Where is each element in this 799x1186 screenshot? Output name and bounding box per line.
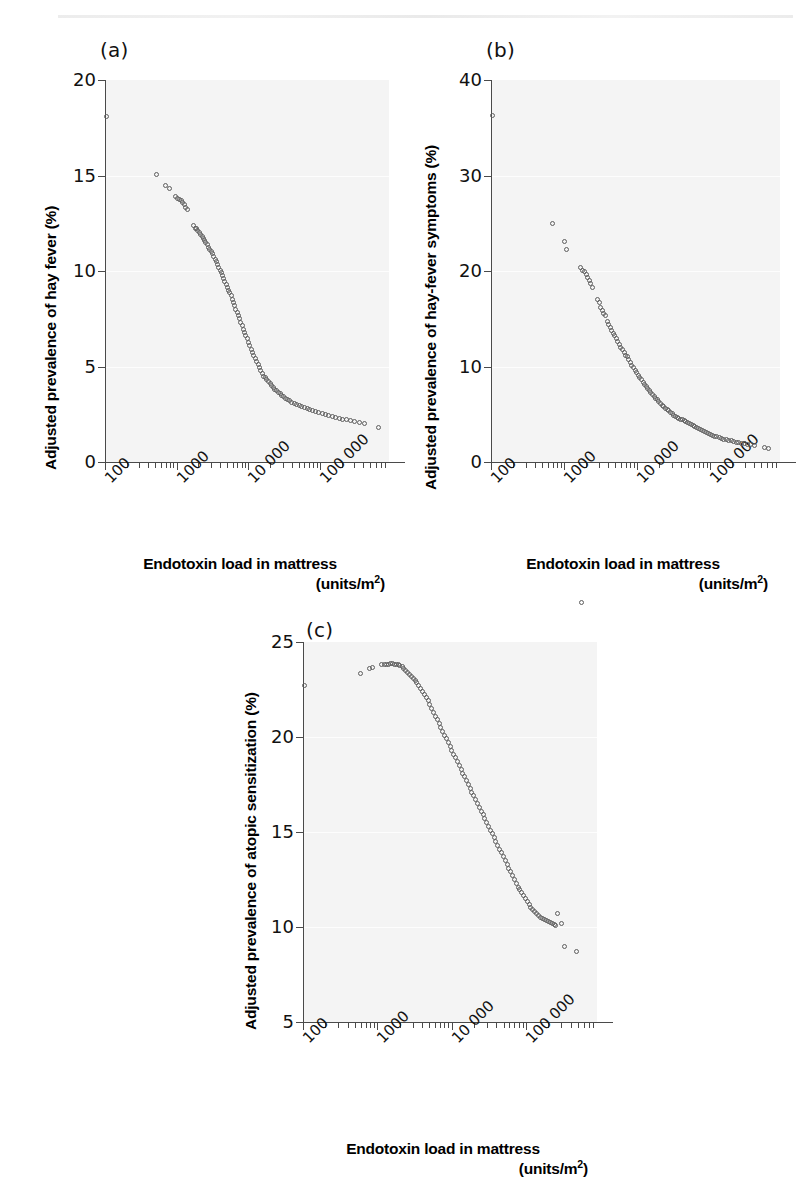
x-tick-minor xyxy=(233,463,234,468)
y-tick-label: 0 xyxy=(438,451,482,472)
x-tick-minor xyxy=(504,1023,505,1028)
y-tick xyxy=(296,737,303,738)
panel-c-x-title-line1: Endotoxin load in mattress xyxy=(346,1140,540,1157)
panel-b-x-title-line2: (units/m2) xyxy=(478,573,768,593)
x-tick-minor xyxy=(292,463,293,468)
x-tick-minor xyxy=(548,463,549,468)
x-tick-minor xyxy=(561,463,562,468)
panel-b: (b) Adjusted prevalence of hay-fever sym… xyxy=(390,0,799,600)
x-tick-minor xyxy=(370,1023,371,1028)
x-tick-minor xyxy=(608,463,609,468)
y-tick-label: 5 xyxy=(250,1011,294,1032)
y-tick-label: 10 xyxy=(438,356,482,377)
x-tick-minor xyxy=(526,463,527,468)
y-tick xyxy=(484,80,491,81)
x-tick-minor xyxy=(761,463,762,468)
y-axis-line xyxy=(303,642,304,1023)
y-tick xyxy=(484,462,491,463)
y-tick-label: 15 xyxy=(250,821,294,842)
x-tick-minor xyxy=(363,463,364,468)
x-tick-minor xyxy=(487,1023,488,1028)
y-tick xyxy=(296,642,303,643)
y-tick xyxy=(98,271,105,272)
x-tick-minor xyxy=(376,463,377,468)
y-tick xyxy=(484,176,491,177)
x-tick-minor xyxy=(571,1023,572,1028)
panel-a: (a) Adjusted prevalence of hay fever (%)… xyxy=(0,0,400,600)
panel-b-x-title-line1: Endotoxin load in mattress xyxy=(526,555,720,572)
x-tick-minor xyxy=(361,1023,362,1028)
gridline xyxy=(491,271,780,272)
y-tick xyxy=(98,80,105,81)
x-tick-minor xyxy=(688,463,689,468)
x-tick-minor xyxy=(584,1023,585,1028)
y-tick-label: 10 xyxy=(52,260,96,281)
y-tick xyxy=(296,1022,303,1023)
x-tick-minor xyxy=(242,463,243,468)
x-tick-minor xyxy=(523,1023,524,1028)
x-tick-minor xyxy=(227,463,228,468)
x-tick-minor xyxy=(519,1023,520,1028)
x-tick-minor xyxy=(703,463,704,468)
x-tick-minor xyxy=(348,1023,349,1028)
gridline xyxy=(105,271,389,272)
panel-c-x-axis-title: Endotoxin load in mattress (units/m2) xyxy=(298,1140,588,1178)
y-tick-label: 0 xyxy=(52,451,96,472)
panel-a-x-axis-title: Endotoxin load in mattress (units/m2) xyxy=(95,555,385,593)
x-tick-minor xyxy=(561,1023,562,1028)
x-tick-minor xyxy=(634,463,635,468)
x-tick-minor xyxy=(672,463,673,468)
y-tick-label: 10 xyxy=(250,916,294,937)
gridline xyxy=(105,367,389,368)
x-tick-minor xyxy=(299,463,300,468)
data-point xyxy=(154,172,159,177)
x-tick-minor xyxy=(338,1023,339,1028)
x-tick-minor xyxy=(304,463,305,468)
x-tick-minor xyxy=(589,1023,590,1028)
x-tick-minor xyxy=(553,463,554,468)
data-point xyxy=(376,425,381,430)
x-tick-minor xyxy=(615,463,616,468)
plot-background xyxy=(491,80,780,462)
x-tick-minor xyxy=(381,463,382,468)
x-tick-minor xyxy=(374,1023,375,1028)
data-point xyxy=(104,114,109,119)
y-tick-label: 20 xyxy=(52,69,96,90)
y-tick xyxy=(98,367,105,368)
x-tick-minor xyxy=(170,463,171,468)
x-tick-minor xyxy=(745,463,746,468)
x-tick-minor xyxy=(237,463,238,468)
x-tick-minor xyxy=(707,463,708,468)
y-tick xyxy=(296,927,303,928)
x-tick-minor xyxy=(309,463,310,468)
y-tick-label: 25 xyxy=(250,631,294,652)
plot-background xyxy=(303,642,597,1022)
x-tick-minor xyxy=(694,463,695,468)
x-tick-minor xyxy=(599,463,600,468)
panel-a-x-title-line1: Endotoxin load in mattress xyxy=(143,555,337,572)
x-tick-minor xyxy=(535,463,536,468)
y-tick-label: 20 xyxy=(250,726,294,747)
y-tick-label: 15 xyxy=(52,165,96,186)
x-tick-minor xyxy=(139,463,140,468)
gridline xyxy=(303,832,597,833)
x-tick-minor xyxy=(630,463,631,468)
data-point xyxy=(559,921,564,926)
data-point xyxy=(579,600,584,605)
x-tick-minor xyxy=(354,463,355,468)
x-tick-minor xyxy=(448,1023,449,1028)
x-tick-minor xyxy=(283,463,284,468)
y-tick-label: 40 xyxy=(438,69,482,90)
x-tick-minor xyxy=(166,463,167,468)
panel-a-plot-area: 05101520100100010 000100 000 xyxy=(0,0,400,600)
panel-b-plot-area: 010203040100100010 000100 000 xyxy=(390,0,799,600)
x-tick-minor xyxy=(173,463,174,468)
x-tick-minor xyxy=(313,463,314,468)
x-tick-minor xyxy=(148,463,149,468)
x-tick-minor xyxy=(593,1023,594,1028)
x-tick-minor xyxy=(509,1023,510,1028)
y-tick xyxy=(98,176,105,177)
x-tick-minor xyxy=(422,1023,423,1028)
x-tick-minor xyxy=(413,1023,414,1028)
x-tick-minor xyxy=(155,463,156,468)
